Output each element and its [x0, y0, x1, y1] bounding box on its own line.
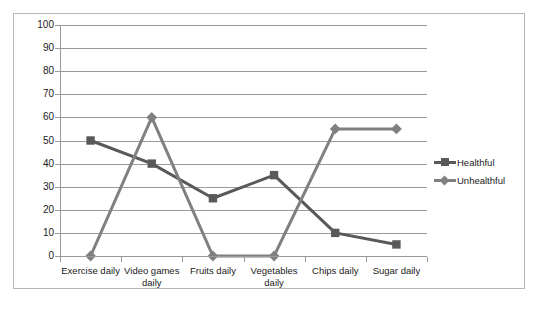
x-axis-category-label: Exercise daily — [60, 265, 121, 299]
series-layer — [60, 25, 427, 256]
x-axis-tick — [121, 257, 122, 262]
legend-marker-icon — [434, 156, 456, 168]
x-axis-tick — [182, 257, 183, 262]
x-axis-category-label: Fruits daily — [182, 265, 243, 299]
chart-frame: 1009080706050403020100 Exercise dailyVid… — [13, 13, 525, 289]
y-axis-tick — [55, 48, 60, 49]
y-axis-tick-label: 90 — [18, 43, 54, 53]
chart-container: 1009080706050403020100 Exercise dailyVid… — [0, 0, 538, 314]
legend-item-healthful[interactable]: Healthful — [434, 153, 526, 171]
chart-legend: HealthfulUnhealthful — [434, 153, 526, 189]
x-axis-tick — [60, 257, 61, 262]
x-axis-tick — [427, 257, 428, 262]
data-point-marker — [391, 124, 402, 135]
y-axis-tick-label: 80 — [18, 66, 54, 76]
y-axis-tick-label: 0 — [18, 251, 54, 261]
legend-label: Healthful — [457, 157, 495, 168]
plot-area — [60, 25, 427, 256]
y-axis-tick-label: 100 — [18, 20, 54, 30]
data-point-marker — [270, 171, 278, 179]
y-axis-tick — [55, 117, 60, 118]
data-point-marker — [209, 194, 217, 202]
y-axis-tick-label: 70 — [18, 89, 54, 99]
y-axis-tick — [55, 141, 60, 142]
legend-item-unhealthful[interactable]: Unhealthful — [434, 171, 526, 189]
x-axis-category-label: Chips daily — [305, 265, 366, 299]
y-axis-tick — [55, 210, 60, 211]
data-point-marker — [86, 136, 94, 144]
data-point-marker — [392, 240, 400, 248]
x-axis-tick — [305, 257, 306, 262]
y-axis-tick — [55, 187, 60, 188]
y-axis-tick — [55, 25, 60, 26]
y-axis-tick — [55, 233, 60, 234]
y-axis-tick — [55, 71, 60, 72]
data-point-marker — [331, 229, 339, 237]
data-point-marker — [330, 124, 341, 135]
x-axis-tick — [244, 257, 245, 262]
x-axis-category-label: Vegetables daily — [244, 265, 305, 299]
y-axis-line — [60, 25, 61, 257]
legend-label: Unhealthful — [457, 175, 505, 186]
y-axis-tick-label: 10 — [18, 228, 54, 238]
y-axis-tick — [55, 94, 60, 95]
y-axis-labels: 1009080706050403020100 — [14, 14, 54, 290]
y-axis-tick-label: 30 — [18, 182, 54, 192]
series-line-healthful — [91, 141, 397, 245]
y-axis-tick-label: 60 — [18, 112, 54, 122]
data-point-marker — [148, 159, 156, 167]
x-axis-tick — [366, 257, 367, 262]
y-axis-tick-label: 40 — [18, 159, 54, 169]
y-axis-tick-label: 50 — [18, 136, 54, 146]
x-axis-labels: Exercise dailyVideo games dailyFruits da… — [60, 265, 427, 299]
y-axis-tick-label: 20 — [18, 205, 54, 215]
x-axis-category-label: Sugar daily — [366, 265, 427, 299]
x-axis-category-label: Video games daily — [121, 265, 182, 299]
y-axis-tick — [55, 164, 60, 165]
legend-marker-icon — [434, 174, 456, 186]
data-point-marker — [146, 112, 157, 123]
